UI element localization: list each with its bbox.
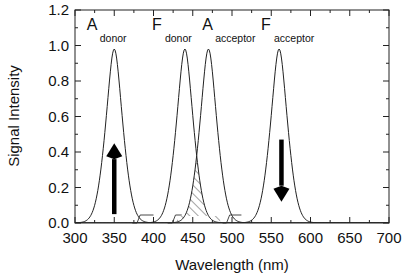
label-a-acceptor: Aacceptor	[202, 16, 256, 44]
label-a-donor: Adonor	[87, 16, 127, 44]
x-tick-label: 650	[337, 229, 362, 246]
spectra-curves	[75, 49, 389, 223]
y-tick-label: 0.6	[48, 108, 69, 125]
curve-f-donor	[75, 49, 389, 223]
y-tick-label: 0.4	[48, 143, 69, 160]
x-tick-label: 350	[102, 229, 127, 246]
x-tick-label: 450	[180, 229, 205, 246]
x-tick-label: 500	[219, 229, 244, 246]
x-tick-label: 550	[259, 229, 284, 246]
peak-labels: AdonorFdonorAacceptorFacceptor	[87, 16, 315, 44]
svg-text:A: A	[87, 16, 98, 33]
y-tick-label: 0.8	[48, 72, 69, 89]
svg-text:A: A	[202, 16, 213, 33]
x-axis-title: Wavelength (nm)	[175, 256, 289, 273]
svg-text:donor: donor	[100, 32, 127, 44]
x-tick-label: 300	[62, 229, 87, 246]
spectral-overlap-hatch	[177, 156, 220, 223]
baseline-step-artifacts	[132, 215, 241, 223]
label-f-acceptor: Facceptor	[261, 16, 315, 44]
x-tick-label: 600	[298, 229, 323, 246]
svg-text:acceptor: acceptor	[274, 32, 315, 44]
curve-f-acceptor	[75, 49, 389, 223]
y-tick-label: 1.0	[48, 37, 69, 54]
curve-a-acceptor	[75, 49, 389, 223]
y-tick-label: 0.2	[48, 179, 69, 196]
label-f-donor: Fdonor	[152, 16, 192, 44]
x-tick-label: 700	[376, 229, 401, 246]
y-axis-title: Signal Intensity	[5, 65, 22, 167]
x-tick-label: 400	[141, 229, 166, 246]
curve-a-donor	[75, 49, 389, 223]
y-tick-label: 1.2	[48, 1, 69, 18]
svg-text:F: F	[261, 16, 271, 33]
svg-text:donor: donor	[165, 32, 192, 44]
arrow-up-icon	[106, 143, 122, 159]
fret-spectra-chart: 300350400450500550600650700 0.00.20.40.6…	[0, 0, 407, 278]
svg-text:F: F	[152, 16, 162, 33]
arrow-down-icon	[273, 186, 289, 202]
y-tick-label: 0.0	[48, 214, 69, 231]
svg-text:acceptor: acceptor	[215, 32, 256, 44]
